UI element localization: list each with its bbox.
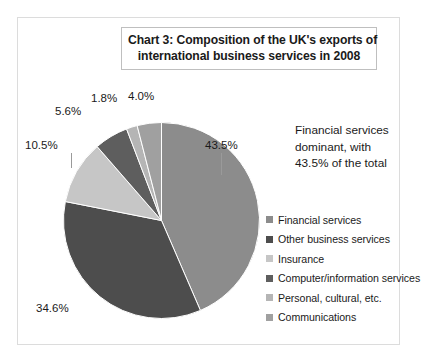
leader-line-insurance xyxy=(71,153,72,168)
legend-item[interactable]: Other business services xyxy=(266,230,416,250)
legend-swatch-icon xyxy=(266,216,273,223)
legend-item-label: Computer/information services xyxy=(278,272,420,284)
chart-title-line-2: international business services in 2008 xyxy=(128,48,370,64)
legend-swatch-icon xyxy=(266,294,273,301)
legend-swatch-icon xyxy=(266,255,273,262)
chart-legend: Financial servicesOther business service… xyxy=(266,210,416,327)
slice-label-financial-services: 43.5% xyxy=(205,139,238,151)
legend-item-label: Other business services xyxy=(278,233,390,245)
chart-title: Chart 3: Composition of the UK's exports… xyxy=(121,27,377,70)
legend-item[interactable]: Financial services xyxy=(266,210,416,230)
legend-swatch-icon xyxy=(266,275,273,282)
legend-item-label: Personal, cultural, etc. xyxy=(278,292,382,304)
legend-item[interactable]: Communications xyxy=(266,308,416,328)
legend-swatch-icon xyxy=(266,236,273,243)
legend-item-label: Financial services xyxy=(278,214,361,226)
chart-title-line-1: Chart 3: Composition of the UK's exports… xyxy=(128,32,370,48)
chart-annotation: Financial services dominant, with 43.5% … xyxy=(295,122,420,172)
legend-item-label: Insurance xyxy=(278,253,324,265)
annotation-line-2: dominant, with xyxy=(295,139,420,156)
slice-label-computer-information-services: 5.6% xyxy=(55,105,81,117)
legend-item[interactable]: Insurance xyxy=(266,249,416,269)
slice-label-insurance: 10.5% xyxy=(25,139,58,151)
annotation-line-3: 43.5% of the total xyxy=(295,155,420,172)
legend-item[interactable]: Personal, cultural, etc. xyxy=(266,288,416,308)
slice-label-personal-cultural: 1.8% xyxy=(91,92,117,104)
leader-line-financial-services xyxy=(221,153,222,175)
chart-figure-frame: Chart 3: Composition of the UK's exports… xyxy=(17,17,400,345)
slice-label-other-business-services: 34.6% xyxy=(36,302,69,314)
legend-swatch-icon xyxy=(266,314,273,321)
annotation-line-1: Financial services xyxy=(295,122,420,139)
slice-label-communications: 4.0% xyxy=(128,90,154,102)
pie-chart-svg xyxy=(63,122,260,319)
pie-chart xyxy=(63,122,260,319)
legend-item[interactable]: Computer/information services xyxy=(266,269,416,289)
legend-item-label: Communications xyxy=(278,311,356,323)
